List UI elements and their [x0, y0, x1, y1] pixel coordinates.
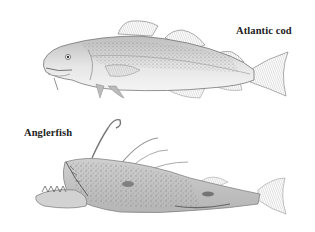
fish-comparison-figure: Atlantic cod Anglerfish [0, 0, 315, 232]
atlantic-cod-label: Atlantic cod [236, 25, 292, 36]
anglerfish-label: Anglerfish [24, 127, 72, 138]
anglerfish-illustration [36, 120, 286, 214]
